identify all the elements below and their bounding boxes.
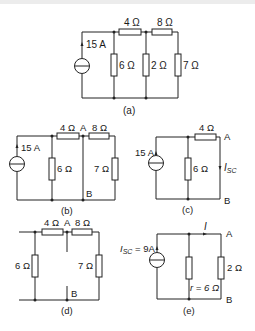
resistor-label: 8 Ω — [75, 217, 90, 228]
node-label-b: B — [86, 188, 92, 199]
source-label: 15 A — [135, 147, 155, 158]
junction-dot — [187, 136, 190, 139]
junction-dot — [145, 97, 148, 100]
resistor-6-ohm-icon — [32, 255, 38, 277]
resistor-label: 2 Ω — [151, 60, 167, 71]
resistor-8-ohm-icon — [152, 29, 172, 35]
panel-c: 15 A 4 Ω A 6 Ω ISC B (c) — [135, 122, 237, 215]
source-label: 15 A — [86, 39, 106, 50]
resistor-8-ohm-icon — [72, 229, 92, 235]
panel-e: ISC = 9A I A r = 6 Ω 2 Ω B (e) — [120, 221, 242, 316]
current-arrow-icon — [219, 166, 222, 170]
source-label: ISC = 9A — [120, 243, 155, 255]
resistor-label: 6 Ω — [57, 163, 72, 174]
resistor-label: 4 Ω — [199, 122, 214, 133]
resistor-label: 4 Ω — [44, 217, 59, 228]
current-arrow-icon — [203, 233, 207, 236]
junction-dot — [66, 231, 69, 234]
resistor-2-ohm-icon — [143, 54, 149, 76]
resistor-7-ohm-icon — [96, 255, 102, 277]
resistor-4-ohm-icon — [42, 229, 63, 235]
junction-dot — [51, 199, 54, 202]
node-label-a: A — [224, 131, 231, 142]
caption: (e) — [183, 305, 195, 316]
current-label: ISC — [224, 162, 237, 174]
caption: (d) — [61, 305, 73, 316]
panel-a: 15 A 4 Ω 8 Ω 6 Ω 2 Ω 7 Ω (a) — [75, 17, 200, 116]
resistor-4-ohm-icon — [119, 29, 141, 35]
junction-dot — [145, 31, 148, 34]
junction-dot — [113, 97, 116, 100]
node-label-a: A — [80, 122, 87, 133]
node-label-b: B — [224, 195, 230, 206]
junction-dot — [113, 31, 116, 34]
junction-dot — [82, 135, 85, 138]
node-label-a: A — [226, 228, 233, 239]
junction-dot — [34, 299, 37, 302]
resistor-label: 6 Ω — [193, 163, 208, 174]
junction-dot — [187, 198, 190, 201]
resistor-label: 8 Ω — [92, 122, 107, 133]
resistor-6-ohm-icon — [185, 158, 191, 180]
node-label-b: B — [226, 294, 232, 305]
resistor-label: 6 Ω — [15, 260, 30, 271]
caption: (a) — [123, 105, 135, 116]
wire — [35, 232, 67, 300]
junction-dot — [66, 299, 69, 302]
source-label: 15 A — [21, 142, 41, 153]
junction-dot — [188, 298, 191, 301]
resistor-4-ohm-icon — [57, 133, 79, 139]
resistor-label: 2 Ω — [227, 262, 242, 273]
circuit-figure: 15 A 4 Ω 8 Ω 6 Ω 2 Ω 7 Ω (a) 15 A 4 Ω A — [0, 0, 255, 331]
resistor-label: r = 6 Ω — [190, 282, 219, 293]
junction-dot — [34, 231, 37, 234]
resistor-7-ohm-icon — [175, 54, 181, 76]
resistor-2-ohm-icon — [218, 257, 224, 279]
resistor-8-ohm-icon — [89, 133, 109, 139]
panel-d: 4 Ω A 8 Ω 6 Ω 7 Ω B (d) — [15, 217, 102, 316]
junction-dot — [51, 135, 54, 138]
junction-dot — [82, 199, 85, 202]
resistor-label: 7 Ω — [94, 163, 109, 174]
resistor-label: 7 Ω — [78, 260, 93, 271]
resistor-7-ohm-icon — [112, 158, 118, 180]
caption: (b) — [61, 205, 73, 216]
resistor-label: 6 Ω — [119, 60, 135, 71]
node-label-b: B — [71, 288, 77, 299]
resistor-4-ohm-icon — [195, 134, 216, 140]
junction-dot — [188, 233, 191, 236]
resistor-6-ohm-icon — [111, 54, 117, 76]
panel-b: 15 A 4 Ω A 8 Ω 6 Ω 7 Ω B (b) — [10, 122, 119, 216]
resistor-label: 7 Ω — [183, 60, 199, 71]
resistor-label: 8 Ω — [157, 17, 173, 28]
caption: (c) — [182, 204, 193, 215]
node-label-a: A — [64, 217, 71, 228]
resistor-6-ohm-icon — [49, 158, 55, 180]
resistor-label: 4 Ω — [124, 17, 140, 28]
resistor-r-icon — [186, 257, 192, 279]
current-label: I — [204, 221, 207, 232]
resistor-label: 4 Ω — [60, 122, 75, 133]
